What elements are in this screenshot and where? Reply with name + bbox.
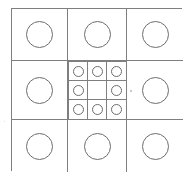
outer-cell-top-center: [68, 9, 127, 61]
small-circle-top-center: [92, 66, 103, 77]
small-circle-bottom-center: [92, 104, 103, 115]
scan-speck-right-of-center: [130, 90, 132, 92]
figure-canvas: [0, 0, 191, 181]
circle-bottom-right: [142, 133, 169, 160]
circle-middle-left: [26, 77, 53, 104]
outer-cell-center: [68, 61, 127, 120]
inner-cell-middle-left: [69, 81, 88, 100]
inner-cell-top-center: [88, 62, 107, 81]
inner-cell-bottom-left: [69, 100, 88, 119]
outer-cell-middle-right: [127, 61, 183, 120]
inner-cell-middle-right: [107, 81, 126, 100]
scan-speck-left-edge: [4, 121, 5, 122]
small-circle-middle-left: [73, 85, 84, 96]
outer-cell-bottom-center: [68, 120, 127, 172]
small-circle-top-right: [111, 66, 122, 77]
outer-cell-top-left: [12, 9, 68, 61]
inner-cell-top-right: [107, 62, 126, 81]
circle-bottom-center: [84, 133, 111, 160]
outer-cell-top-right: [127, 9, 183, 61]
outer-cell-bottom-left: [12, 120, 68, 172]
outer-cell-bottom-right: [127, 120, 183, 172]
circle-top-left: [26, 21, 53, 48]
inner-cell-center-empty: [88, 81, 107, 100]
circle-top-right: [142, 21, 169, 48]
outer-cell-middle-left: [12, 61, 68, 120]
circle-bottom-left: [26, 133, 53, 160]
inner-grid: [68, 61, 127, 120]
small-circle-top-left: [73, 66, 84, 77]
inner-cell-bottom-right: [107, 100, 126, 119]
small-circle-bottom-right: [111, 104, 122, 115]
inner-cell-top-left: [69, 62, 88, 81]
small-circle-middle-right: [111, 85, 122, 96]
circle-top-center: [84, 21, 111, 48]
small-circle-bottom-left: [73, 104, 84, 115]
inner-cell-bottom-center: [88, 100, 107, 119]
circle-middle-right: [142, 77, 169, 104]
outer-grid: [11, 8, 182, 171]
